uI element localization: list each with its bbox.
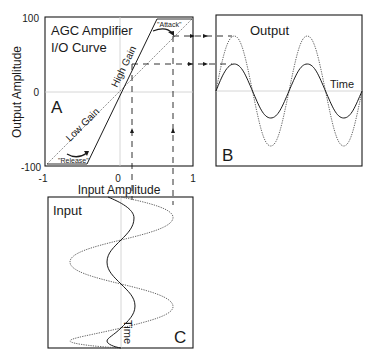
- x-axis-label: Input Amplitude: [78, 183, 161, 197]
- release-label: "Release": [58, 157, 89, 164]
- y-tick-100: 100: [22, 13, 39, 24]
- panel-c-label: C: [174, 328, 186, 347]
- y-tick-neg100: -100: [21, 162, 41, 173]
- panel-a-io-curve: AGC Amplifier I/O Curve A High Gain Low …: [10, 13, 232, 205]
- attack-arrowhead: [168, 31, 174, 36]
- panel-c-title: Input: [53, 203, 82, 218]
- panel-c-frame: [48, 197, 193, 348]
- arrow-right-low-2: [203, 62, 208, 66]
- x-tick-1: 1: [190, 173, 196, 184]
- agc-diagram: AGC Amplifier I/O Curve A High Gain Low …: [0, 0, 373, 363]
- y-tick-0: 0: [33, 87, 39, 98]
- panel-c-time-label: Time: [122, 320, 134, 344]
- panel-a-title-line2: I/O Curve: [51, 40, 107, 55]
- release-arrowhead: [84, 151, 89, 156]
- panel-b-output: Output Time B: [216, 15, 362, 166]
- arrow-up-high: [171, 128, 175, 133]
- arrow-right-high-2: [203, 34, 208, 38]
- panel-b-title: Output: [250, 23, 289, 38]
- input-large-wave: [70, 197, 173, 348]
- attack-label: "Attack": [157, 21, 182, 28]
- x-tick-neg1: -1: [39, 173, 48, 184]
- arrow-right-low-1: [188, 62, 193, 66]
- panel-b-time-label: Time: [330, 78, 354, 90]
- panel-b-label: B: [222, 146, 233, 165]
- low-gain-label: Low Gain: [64, 106, 102, 144]
- panel-a-label: A: [51, 98, 63, 117]
- panel-a-title-line1: AGC Amplifier: [51, 23, 133, 38]
- arrow-up-low: [130, 128, 134, 133]
- panel-c-input: Input Time C: [48, 197, 193, 348]
- y-axis-label: Output Amplitude: [10, 46, 24, 138]
